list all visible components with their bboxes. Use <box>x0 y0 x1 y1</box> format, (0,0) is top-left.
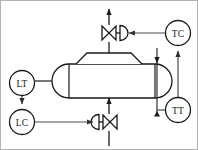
instrument-bubble-tc[interactable]: TC <box>166 21 191 46</box>
instrument-tag-tc: TC <box>172 29 185 39</box>
pid-drawing: TC TT LT LC <box>0 0 198 150</box>
instrument-bubble-lt[interactable]: LT <box>10 71 35 96</box>
vapor-dome <box>76 53 142 64</box>
instrument-bubble-lc[interactable]: LC <box>10 110 35 135</box>
instrument-tag-lt: LT <box>16 79 27 89</box>
instrument-bubble-tt[interactable]: TT <box>166 98 191 123</box>
horizontal-vessel <box>52 64 172 98</box>
pid-canvas: TC TT LT LC <box>0 0 198 150</box>
instrument-tag-lc: LC <box>16 118 29 128</box>
instrument-tag-tt: TT <box>172 106 184 116</box>
